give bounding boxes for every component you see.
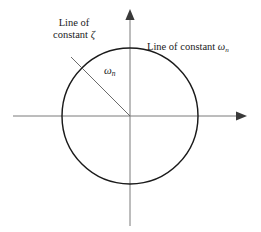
- horizontal-axis-arrowhead: [236, 111, 247, 120]
- vertical-axis-arrowhead: [125, 9, 134, 20]
- label-constant-omega-n: Line of constant ωn: [147, 41, 229, 54]
- omega-subscript-n: n: [225, 46, 229, 54]
- label-omega-n-radius: ωn: [104, 64, 116, 79]
- root-figure: Line of constant ζ Line of constant ωn ω…: [0, 0, 261, 232]
- diagram-canvas: [0, 0, 261, 232]
- zeta-symbol: ζ: [91, 29, 95, 40]
- radius-omega-symbol: ω: [104, 64, 112, 76]
- radius-omega-subscript-n: n: [112, 69, 116, 78]
- label-constant-zeta: Line of constant ζ: [44, 17, 104, 42]
- label-constant-omega-prefix: Line of constant: [147, 41, 215, 52]
- constant-zeta-line: [71, 57, 130, 116]
- label-constant-zeta-line1: Line of: [59, 17, 90, 28]
- label-constant-zeta-line2: constant: [53, 29, 88, 40]
